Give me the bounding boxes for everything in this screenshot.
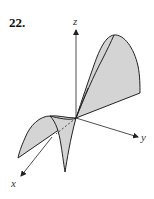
z-axis-label: z (72, 15, 78, 27)
surface-figure: z y x (0, 0, 154, 199)
x-axis-label: x (10, 177, 16, 189)
y-axis-label: y (140, 131, 146, 143)
y-axis (76, 118, 138, 137)
